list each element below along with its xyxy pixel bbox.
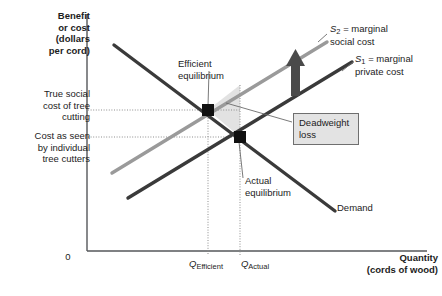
x-axis-title: Quantity (cords of wood) [330,252,438,275]
point-actual-equilibrium [234,131,246,143]
annotation-deadweight-loss-box: Deadweight loss [293,113,359,145]
leader-line-s2 [318,34,327,42]
curve-label-supply-social: S2 = marginal social cost [330,23,438,47]
x-tick-label-q-actual: QActual [228,258,282,271]
x-tick-subscript-actual: Actual [248,262,269,271]
curve-label-demand: Demand [337,202,397,214]
annotation-efficient-equilibrium: Efficient equilibrium [178,58,248,81]
leader-line-actual [239,142,243,178]
origin-label: 0 [62,251,74,263]
y-axis-title: Benefit or cost (dollars per cord) [12,10,90,56]
annotation-actual-equilibrium: Actual equilibrium [245,175,311,198]
x-tick-subscript-efficient: Efficient [196,262,223,271]
s2-subscript: 2 [336,27,340,36]
s1-subscript: 1 [361,57,365,66]
curve-label-supply-private: S1 = marginal private cost [355,53,442,77]
supply-demand-externality-chart: Benefit or cost (dollars per cord) Quant… [0,0,442,296]
y-tick-label-private-cost: Cost as seen by individual tree cutters [4,130,90,165]
point-efficient-equilibrium [202,104,214,116]
y-tick-label-true-social-cost: True social cost of tree cutting [4,88,90,123]
